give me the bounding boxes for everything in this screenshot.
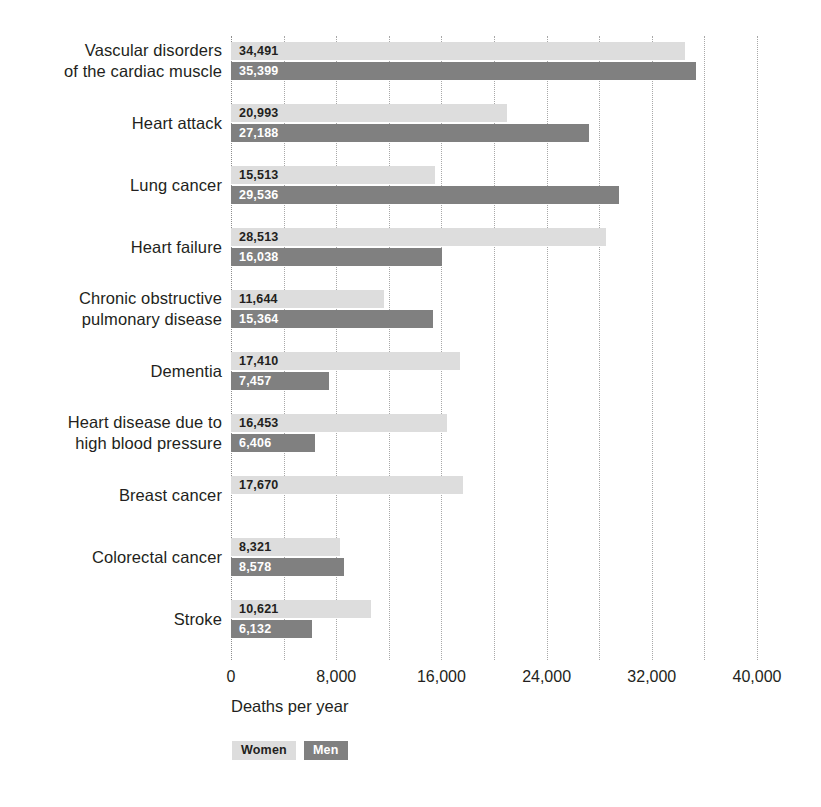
legend-item-men[interactable]: Men [304,741,348,760]
category-group: Heart disease due to high blood pressure… [231,414,817,452]
x-tick-label: 24,000 [522,666,571,688]
category-label: Heart attack [0,113,222,134]
bar-value-label: 7,457 [239,372,271,390]
bar-value-label: 6,132 [239,620,271,638]
bar-value-label: 8,578 [239,558,271,576]
bar-value-label: 15,364 [239,310,278,328]
x-axis-tick-labels: 08,00016,00024,00032,00040,000 [231,666,757,690]
category-label: Colorectal cancer [0,547,222,568]
category-group: Colorectal cancer8,3218,578 [231,538,817,576]
x-tick-label: 40,000 [733,666,782,688]
bar-value-label: 16,038 [239,248,278,266]
category-group: Dementia17,4107,457 [231,352,817,390]
category-group: Lung cancer15,51329,536 [231,166,817,204]
x-tick-label: 8,000 [316,666,356,688]
bar-value-label: 11,644 [239,290,278,308]
bar-value-label: 35,399 [239,62,278,80]
legend-item-women[interactable]: Women [232,741,296,760]
bar-value-label: 34,491 [239,42,278,60]
x-axis-title: Deaths per year [231,695,348,717]
category-label: Heart failure [0,237,222,258]
bar-value-label: 17,670 [239,476,278,494]
bar-value-label: 20,993 [239,104,278,122]
category-group: Stroke10,6216,132 [231,600,817,638]
category-label: Lung cancer [0,175,222,196]
category-label: Chronic obstructive pulmonary disease [0,288,222,330]
bar-value-label: 28,513 [239,228,278,246]
bar-women [231,228,606,246]
chart-legend: WomenMen [232,741,348,760]
bar-value-label: 15,513 [239,166,278,184]
category-group: Chronic obstructive pulmonary disease11,… [231,290,817,328]
bar-women [231,42,685,60]
x-tick-label: 32,000 [627,666,676,688]
bar-value-label: 10,621 [239,600,278,618]
x-tick-label: 16,000 [417,666,466,688]
bar-chart: Vascular disorders of the cardiac muscle… [0,0,821,807]
plot-area: Vascular disorders of the cardiac muscle… [231,36,757,660]
category-label: Breast cancer [0,485,222,506]
category-label: Stroke [0,609,222,630]
category-group: Heart attack20,99327,188 [231,104,817,142]
category-label: Dementia [0,361,222,382]
bar-men [231,62,696,80]
category-group: Breast cancer17,670 [231,476,817,514]
category-group: Heart failure28,51316,038 [231,228,817,266]
x-tick-label: 0 [227,666,236,688]
bar-value-label: 16,453 [239,414,278,432]
category-group: Vascular disorders of the cardiac muscle… [231,42,817,80]
bar-value-label: 27,188 [239,124,278,142]
bar-value-label: 29,536 [239,186,278,204]
category-label: Heart disease due to high blood pressure [0,412,222,454]
bar-value-label: 8,321 [239,538,271,556]
bar-value-label: 6,406 [239,434,271,452]
bar-men [231,124,589,142]
bar-men [231,186,619,204]
category-label: Vascular disorders of the cardiac muscle [0,40,222,82]
bar-value-label: 17,410 [239,352,278,370]
